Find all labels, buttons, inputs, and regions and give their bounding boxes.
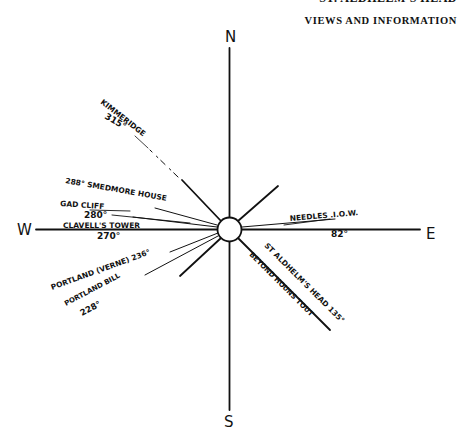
south-label: S: [224, 413, 234, 431]
needles-bearing: 82°: [331, 229, 348, 239]
needles-label: NEEDLES .I.O.W.: [289, 208, 358, 223]
nw-spoke: [182, 180, 221, 221]
gad-cliff-bearing: 280°: [84, 210, 107, 220]
west-label: W: [17, 221, 32, 239]
kimmeridge-bearing-line: [150, 150, 178, 177]
north-label: N: [225, 28, 236, 46]
portland-bill-bearing: 228°: [78, 299, 102, 318]
east-label: E: [426, 225, 435, 243]
smedmore-label: 288° SMEDMORE HOUSE: [65, 176, 168, 203]
compass-center-circle: [218, 218, 242, 242]
compass-diagram: N S W E KIMMERIDGE 315° 288° SMEDMORE HO…: [0, 0, 461, 445]
sw-spoke: [180, 238, 221, 276]
clavells-tower-bearing: 270°: [97, 231, 120, 241]
portland-bill-bearing-line: [145, 236, 218, 275]
clavells-tower-label: CLAVELL'S TOWER: [63, 221, 140, 230]
ne-spoke: [238, 186, 278, 221]
